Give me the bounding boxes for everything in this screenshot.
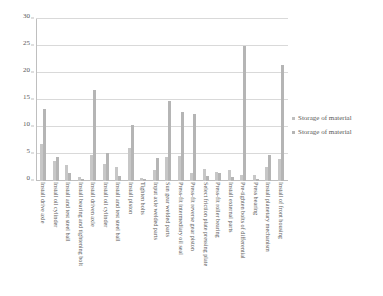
x-axis-tick-label: Install and test steel ball <box>115 182 121 242</box>
bar[interactable] <box>181 112 184 181</box>
x-axis-tick: Pre-tighten bolts of differential <box>237 182 250 296</box>
y-axis-tick-mark <box>31 180 34 181</box>
x-axis-tick-label: Press-fit roller bearing <box>215 182 221 238</box>
x-axis-tick-label: Tighten bolts <box>140 182 146 215</box>
x-axis-tick-label: Input axle welded parts <box>153 182 159 240</box>
y-axis-tick-mark <box>31 153 34 154</box>
bar[interactable] <box>68 173 71 181</box>
bar[interactable] <box>93 90 96 181</box>
bar-group <box>225 19 238 181</box>
x-axis-tick: Sun gear welded parts <box>162 182 175 296</box>
y-axis-tick-mark <box>31 99 34 100</box>
bar[interactable] <box>193 114 196 182</box>
x-axis-tick: Select friction plate pressing plate <box>200 182 213 296</box>
x-axis-tick: Install planetary mechanism <box>262 182 275 296</box>
bar[interactable] <box>268 155 271 181</box>
bar-group <box>275 19 288 181</box>
bar[interactable] <box>206 176 209 181</box>
bar-group <box>112 19 125 181</box>
x-axis-tick: Install external parts <box>225 182 238 296</box>
bar-chart: 051015202530 Install drive axleInstall o… <box>0 0 383 296</box>
legend-item-label: Storage of material <box>298 128 352 136</box>
bar-group <box>100 19 113 181</box>
y-axis-tick-label: 20 <box>23 66 30 73</box>
x-axis-tick-label: Pre-tighten bolts of differential <box>240 182 246 259</box>
x-axis-tick-label: Install piston <box>128 182 134 214</box>
bar-group <box>262 19 275 181</box>
bar[interactable] <box>56 157 59 181</box>
bar-group <box>212 19 225 181</box>
bar[interactable] <box>231 177 234 181</box>
bar-group <box>50 19 63 181</box>
legend-item[interactable]: Storage of material <box>292 128 380 136</box>
bar[interactable] <box>243 46 246 181</box>
y-axis: 051015202530 <box>0 19 34 181</box>
bar-group <box>162 19 175 181</box>
bar-group <box>187 19 200 181</box>
x-axis-tick: Install and test steel ball <box>62 182 75 296</box>
x-axis-tick-label: Sun gear welded parts <box>165 182 171 237</box>
bar[interactable] <box>106 153 109 181</box>
x-axis-tick-label: Install oil cylinder <box>103 182 109 227</box>
bar[interactable] <box>218 173 221 181</box>
bar[interactable] <box>43 109 46 181</box>
x-axis-tick: Press-fit reverse gear piston <box>187 182 200 296</box>
bar[interactable] <box>81 179 84 181</box>
y-axis-tick-label: 0 <box>27 174 31 181</box>
x-axis-tick: Press bearing <box>250 182 263 296</box>
bar-group <box>200 19 213 181</box>
y-axis-tick-label: 5 <box>27 147 31 154</box>
x-axis-tick-label: Press-fit reverse gear piston <box>190 182 196 251</box>
x-axis-tick: Install oil cylinder <box>50 182 63 296</box>
x-axis-labels: Install drive axleInstall oil cylinderIn… <box>36 182 288 296</box>
y-axis-tick-mark <box>31 18 34 19</box>
y-axis-tick-label: 30 <box>23 12 30 19</box>
bar-group <box>250 19 263 181</box>
x-axis-tick-label: Install drive axle <box>40 182 46 224</box>
x-axis-tick: Install bearing and tightening bolt <box>75 182 88 296</box>
y-axis-tick-mark <box>31 72 34 73</box>
legend-item-label: Storage of material <box>298 114 352 122</box>
x-axis-tick: Install driven axle <box>87 182 100 296</box>
bar[interactable] <box>131 125 134 181</box>
bar[interactable] <box>168 101 171 181</box>
legend-swatch-icon <box>292 131 295 134</box>
bar-group <box>62 19 75 181</box>
bar[interactable] <box>256 179 259 181</box>
x-axis-tick: Install of front housing <box>275 182 288 296</box>
bar-group <box>237 19 250 181</box>
x-axis-tick-label: Press-fit intermediary oil seal <box>178 182 184 255</box>
bar-group <box>150 19 163 181</box>
bar-group <box>175 19 188 181</box>
chart-legend: Storage of material Storage of material <box>292 114 380 142</box>
legend-swatch-icon <box>292 117 295 120</box>
legend-item[interactable]: Storage of material <box>292 114 380 122</box>
x-axis-tick-label: Select friction plate pressing plate <box>203 182 209 266</box>
x-axis-tick: Install and test steel ball <box>112 182 125 296</box>
y-axis-tick-label: 15 <box>23 93 30 100</box>
x-axis-tick-label: Install planetary mechanism <box>265 182 271 252</box>
bar-group <box>75 19 88 181</box>
plot-area <box>36 19 288 181</box>
bar-group <box>125 19 138 181</box>
bar[interactable] <box>281 65 284 181</box>
bars-container <box>36 19 288 181</box>
x-axis-tick: Press-fit roller bearing <box>212 182 225 296</box>
x-axis-tick-label: Install of front housing <box>278 182 284 239</box>
x-axis-tick-label: Install bearing and tightening bolt <box>78 182 84 266</box>
y-axis-tick-label: 10 <box>23 120 30 127</box>
y-axis-tick-label: 25 <box>23 39 30 46</box>
x-axis-tick-label: Install oil cylinder <box>53 182 59 227</box>
bar-group <box>87 19 100 181</box>
bar[interactable] <box>118 176 121 181</box>
x-axis-tick-label: Install driven axle <box>90 182 96 227</box>
x-axis-tick: Install piston <box>125 182 138 296</box>
bar[interactable] <box>143 179 146 181</box>
y-axis-tick-mark <box>31 45 34 46</box>
x-axis-tick: Tighten bolts <box>137 182 150 296</box>
x-axis-tick: Press-fit intermediary oil seal <box>175 182 188 296</box>
bar-group <box>137 19 150 181</box>
x-axis-tick: Install drive axle <box>37 182 50 296</box>
bar[interactable] <box>156 158 159 181</box>
x-axis-tick-label: Install and test steel ball <box>65 182 71 242</box>
